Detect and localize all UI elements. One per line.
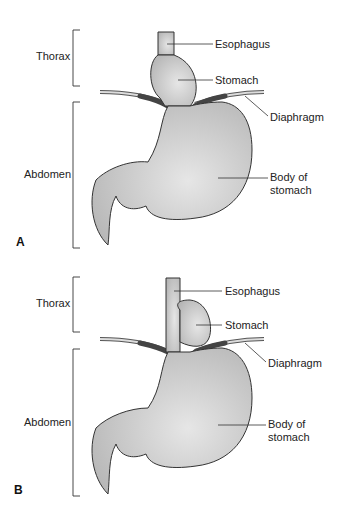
panel-a: Thorax Abdomen Esophagus Stomach Diaphra… bbox=[16, 30, 324, 249]
herniated-stomach bbox=[178, 300, 211, 346]
thorax-label: Thorax bbox=[36, 297, 71, 309]
diaphragm-label: Diaphragm bbox=[268, 357, 322, 369]
diaphragm-leader bbox=[245, 343, 266, 362]
thorax-bracket bbox=[73, 277, 80, 332]
esophagus-label: Esophagus bbox=[225, 285, 281, 297]
stomach-body bbox=[92, 348, 252, 494]
panel-b: Thorax Abdomen Esophagus Stomach Diaphra… bbox=[14, 277, 322, 497]
body-label-2: stomach bbox=[270, 184, 312, 196]
abdomen-bracket bbox=[73, 349, 80, 496]
esophagus-label: Esophagus bbox=[215, 38, 271, 50]
diaphragm-leader bbox=[245, 96, 268, 116]
diaphragm-label: Diaphragm bbox=[270, 111, 324, 123]
thorax-label: Thorax bbox=[36, 50, 71, 62]
abdomen-bracket bbox=[73, 102, 80, 248]
stomach-label: Stomach bbox=[215, 74, 258, 86]
body-label-1: Body of bbox=[268, 418, 306, 430]
panel-letter-b: B bbox=[14, 483, 23, 497]
stomach-label: Stomach bbox=[225, 319, 268, 331]
stomach-body bbox=[92, 102, 252, 245]
body-label-2: stomach bbox=[268, 431, 310, 443]
esophagus bbox=[166, 278, 180, 352]
abdomen-label: Abdomen bbox=[24, 416, 71, 428]
thorax-bracket bbox=[73, 30, 80, 86]
body-label-1: Body of bbox=[270, 171, 308, 183]
abdomen-label: Abdomen bbox=[24, 168, 71, 180]
figure: Thorax Abdomen Esophagus Stomach Diaphra… bbox=[0, 0, 340, 505]
esophagus bbox=[158, 32, 174, 55]
panel-letter-a: A bbox=[16, 235, 25, 249]
